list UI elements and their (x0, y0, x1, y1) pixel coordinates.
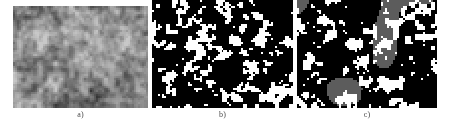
figure-container: a) b) c) (0, 0, 450, 130)
panel-b-caption: b) (152, 110, 293, 120)
panel-c-caption: c) (297, 110, 437, 120)
panel-c (297, 0, 437, 108)
panel-a-image (13, 6, 148, 108)
panel-a (13, 6, 148, 108)
panel-c-image (297, 0, 437, 108)
panel-a-caption: a) (13, 110, 148, 120)
panel-b (152, 0, 293, 108)
panel-b-image (152, 0, 293, 108)
